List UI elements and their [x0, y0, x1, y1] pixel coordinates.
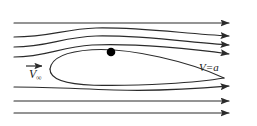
upper-streamlines-group [14, 23, 229, 57]
streamline-5-lower [14, 86, 229, 90]
airfoil-lower-surface [50, 69, 224, 85]
sonic-value: a [213, 61, 219, 73]
lower-streamlines-group [14, 86, 229, 113]
sonic-velocity-label: V=a [199, 62, 219, 73]
airfoil-upper-surface [50, 50, 224, 78]
freestream-velocity-label: V∞ [29, 68, 42, 81]
freestream-subscript: ∞ [36, 73, 41, 82]
airfoil-body-group [50, 50, 224, 86]
sonic-symbol: V [199, 61, 206, 73]
streamline-2 [14, 28, 229, 37]
streamline-3 [14, 36, 229, 47]
sonic-point-marker [107, 48, 116, 57]
airfoil-streamline-figure: V∞ V=a [0, 0, 257, 126]
